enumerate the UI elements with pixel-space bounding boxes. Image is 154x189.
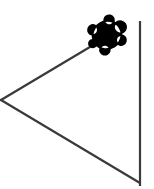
turtle-graphics-canvas[interactable]: Turtle Graphics Canvas: [0, 0, 154, 189]
canvas-background: [0, 0, 154, 189]
drawing-surface[interactable]: [0, 0, 154, 189]
